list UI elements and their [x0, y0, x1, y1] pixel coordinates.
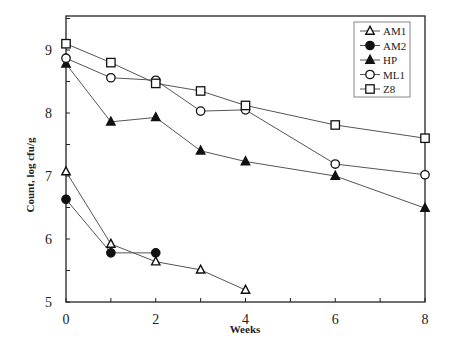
x-tick-label: 6 [332, 312, 339, 327]
hp-marker-icon [196, 146, 204, 154]
line-chart: 02468 56789 Weeks Count, log cfu/g AM1AM… [0, 0, 453, 358]
z8-marker-icon [331, 121, 339, 129]
x-tick-label: 8 [422, 312, 429, 327]
z8-marker-icon [107, 58, 115, 66]
am2-marker-icon [107, 249, 115, 257]
ml1-marker-icon [331, 160, 339, 168]
z8-marker-icon [421, 134, 429, 142]
markers-am1 [62, 167, 250, 293]
x-tick-label: 2 [152, 312, 159, 327]
legend-label: HP [383, 54, 397, 66]
y-tick-label: 6 [45, 232, 52, 247]
legend-label: ML1 [383, 69, 405, 81]
y-tick-label: 7 [45, 169, 52, 184]
z8-marker-icon [196, 87, 204, 95]
legend-label: AM2 [383, 40, 406, 52]
z8-marker-icon [152, 79, 160, 87]
am1-marker-icon [241, 285, 249, 293]
x-tick-label: 0 [63, 312, 70, 327]
y-axis-title: Count, log cfu/g [24, 137, 36, 212]
legend: AM1AM2HPML1Z8 [354, 22, 410, 97]
z8-marker-icon [62, 40, 70, 48]
hp-marker-icon [152, 113, 160, 121]
x-axis-title: Weeks [230, 323, 261, 335]
y-tick-label: 5 [45, 295, 52, 310]
y-tick-label: 9 [45, 43, 52, 58]
legend-label: Z8 [383, 83, 396, 95]
ml1-marker-icon [421, 171, 429, 179]
y-tick-label: 8 [45, 106, 52, 121]
am2-marker-icon [152, 249, 160, 257]
am2-marker-icon [62, 195, 70, 203]
legend-label: AM1 [383, 25, 406, 37]
z8-marker-icon [241, 101, 249, 109]
am1-marker-icon [62, 167, 70, 175]
ml1-marker-icon [62, 54, 70, 62]
legend-am2-marker-icon [366, 41, 374, 49]
legend-z8-marker-icon [366, 85, 374, 93]
legend-ml1-marker-icon [366, 70, 374, 78]
ml1-marker-icon [196, 107, 204, 115]
am1-marker-icon [107, 239, 115, 247]
ml1-marker-icon [107, 74, 115, 82]
